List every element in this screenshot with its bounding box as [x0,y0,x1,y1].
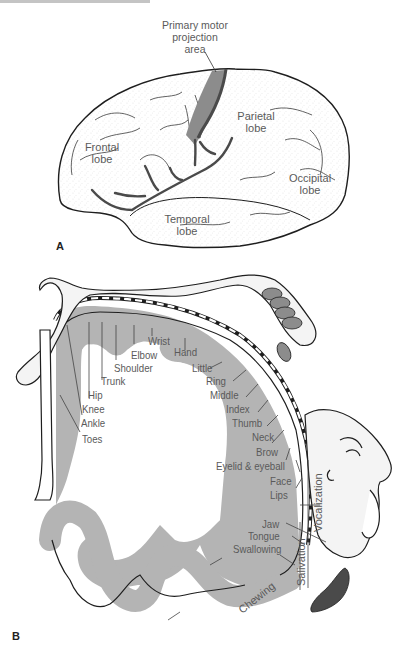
label-primary-motor-area: Primary motor projection area [160,19,230,55]
label-salivation: Salivation [295,538,307,586]
label-trunk: Trunk [101,375,125,387]
label-shoulder: Shoulder [114,362,153,374]
frontal-line-1: Frontal [84,141,120,153]
label-parietal-lobe: Parietal lobe [236,110,276,134]
tongue-region [311,568,349,612]
label-lips: Lips [270,489,288,501]
label-little: Little [192,362,212,374]
label-jaw: Jaw [262,518,279,530]
label-brow: Brow [256,446,278,458]
label-face: Face [270,475,292,487]
primary-motor-line-2: projection [160,31,230,43]
label-neck: Neck [252,431,274,443]
label-hand: Hand [174,346,197,358]
label-knee: Knee [82,403,105,415]
label-ring: Ring [206,375,226,387]
parietal-line-2: lobe [236,122,276,134]
frontal-line-2: lobe [84,153,120,165]
panel-letter-a: A [56,240,64,252]
label-swallowing: Swallowing [233,543,281,555]
primary-motor-line-3: area [160,43,230,55]
label-toes: Toes [82,433,102,445]
label-thumb: Thumb [232,417,262,429]
label-eyelid-eyeball: Eyelid & eyeball [216,460,285,472]
temporal-line-1: Temporal [164,213,210,225]
label-temporal-lobe: Temporal lobe [164,213,210,237]
label-elbow: Elbow [131,349,157,361]
label-vocalization: Vocalization [312,473,324,532]
label-tongue: Tongue [248,530,280,542]
occipital-line-2: lobe [288,184,332,196]
panel-letter-b: B [12,630,20,642]
label-index: Index [226,403,250,415]
motor-homunculus-illustration [0,0,408,650]
label-frontal-lobe: Frontal lobe [84,141,120,165]
label-occipital-lobe: Occipital lobe [288,172,332,196]
temporal-line-2: lobe [164,225,210,237]
label-ankle: Ankle [81,417,105,429]
primary-motor-line-1: Primary motor [160,19,230,31]
label-hip: Hip [88,389,103,401]
label-middle: Middle [210,389,239,401]
occipital-line-1: Occipital [288,172,332,184]
parietal-line-1: Parietal [236,110,276,122]
label-wrist: Wrist [148,335,170,347]
